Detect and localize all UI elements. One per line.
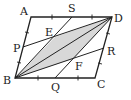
label-f: F (75, 60, 83, 73)
label-e: E (45, 26, 53, 39)
label-q: Q (51, 81, 60, 94)
label-d: D (114, 12, 123, 25)
label-p: P (13, 42, 21, 55)
parallelogram-diagram: A S D E P R F B Q C (0, 0, 131, 100)
label-b: B (3, 74, 11, 87)
label-s: S (68, 2, 76, 15)
label-a: A (19, 5, 29, 18)
label-r: R (107, 45, 116, 58)
label-c: C (97, 78, 105, 91)
